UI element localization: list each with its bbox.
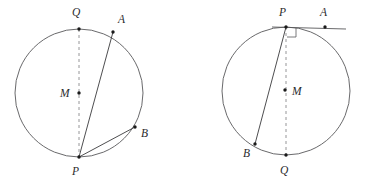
right-point-label-A: A [319, 6, 328, 18]
geometry-canvas: Q A M B P P A M B Q [0, 0, 365, 181]
left-point-label-M: M [59, 87, 71, 99]
left-point-label-P: P [71, 165, 79, 177]
right-point-label-M: M [291, 85, 303, 97]
left-chord-PB [79, 127, 135, 157]
left-point-dot-P [77, 155, 80, 158]
right-tangent-line-PA [272, 27, 346, 29]
left-point-label-Q: Q [72, 6, 81, 18]
right-point-label-Q: Q [280, 164, 289, 176]
left-chord-PA [79, 32, 113, 157]
right-angle-marker-at-P [287, 28, 296, 37]
geometry-figure: Q A M B P P A M B Q [0, 0, 365, 181]
right-point-dot-B [253, 142, 256, 145]
right-point-dot-P [284, 25, 287, 28]
left-point-dot-M [77, 91, 80, 94]
right-point-label-P: P [278, 6, 286, 18]
left-point-dot-Q [77, 27, 80, 30]
left-point-label-B: B [141, 127, 148, 139]
right-point-dot-Q [284, 153, 287, 156]
right-point-label-B: B [243, 147, 250, 159]
right-circle-diagram: P A M B Q [222, 6, 350, 176]
left-point-label-A: A [117, 13, 126, 25]
left-point-dot-B [133, 125, 136, 128]
left-point-dot-A [111, 30, 114, 33]
right-point-dot-M [283, 88, 286, 91]
right-point-dot-A [323, 25, 326, 28]
right-chord-PB [255, 27, 286, 144]
left-circle-diagram: Q A M B P [15, 6, 148, 177]
